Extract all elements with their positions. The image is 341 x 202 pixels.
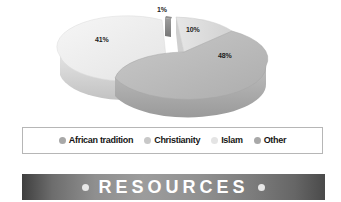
banner-bullet-left-icon: [82, 184, 89, 191]
legend-item-christianity: Christianity: [144, 136, 200, 145]
legend-label: African tradition: [69, 136, 133, 145]
legend-label: Other: [264, 136, 287, 145]
pie-chart: 1% 10% 48% 41%: [0, 0, 341, 125]
banner-bullet-right-icon: [258, 184, 265, 191]
legend-swatch-icon: [59, 137, 66, 144]
resources-banner-title: RESOURCES: [98, 178, 248, 196]
legend-item-list: African tradition Christianity Islam Oth…: [59, 136, 286, 145]
figure-container: 1% 10% 48% 41% African tradition Christi…: [0, 0, 341, 202]
legend-swatch-icon: [211, 137, 218, 144]
slice-other: [165, 16, 172, 37]
legend-item-islam: Islam: [211, 136, 243, 145]
slice-label-african-tradition: 48%: [218, 52, 231, 59]
resources-banner: RESOURCES: [22, 174, 325, 200]
chart-legend: African tradition Christianity Islam Oth…: [22, 127, 323, 154]
legend-item-african-tradition: African tradition: [59, 136, 133, 145]
slice-label-other: 1%: [157, 6, 167, 13]
legend-label: Islam: [221, 136, 243, 145]
slice-label-christianity: 41%: [95, 36, 108, 43]
legend-label: Christianity: [154, 136, 200, 145]
legend-item-other: Other: [254, 136, 287, 145]
legend-swatch-icon: [144, 137, 151, 144]
slice-label-islam: 10%: [186, 26, 199, 33]
pie-chart-graphic: [0, 0, 341, 125]
legend-swatch-icon: [254, 137, 261, 144]
